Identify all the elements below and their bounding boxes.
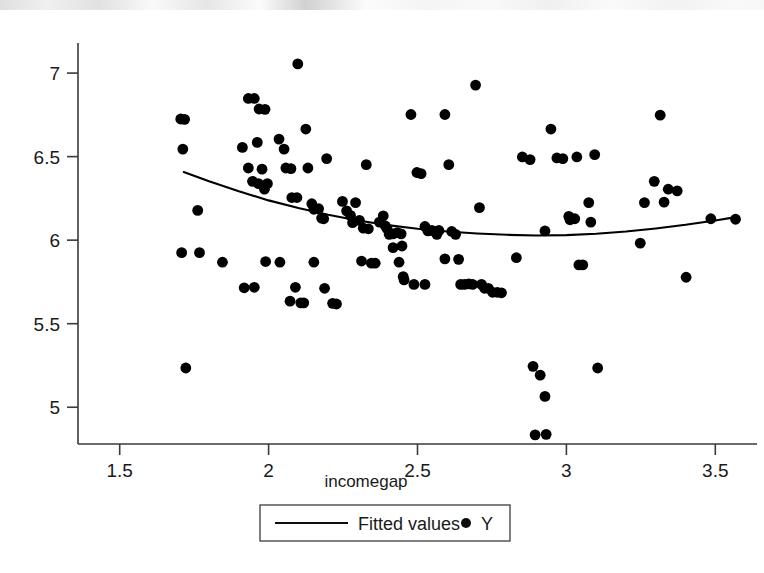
data-point <box>252 137 263 148</box>
data-point <box>260 104 271 115</box>
data-point <box>176 247 187 258</box>
data-point <box>180 363 191 374</box>
data-point <box>635 238 646 249</box>
data-point <box>440 109 451 120</box>
data-point <box>275 257 286 268</box>
data-point <box>192 205 203 216</box>
y-tick-label-6.5: 6.5 <box>34 147 60 168</box>
data-point <box>257 164 268 175</box>
y-tick-label-7: 7 <box>49 63 60 84</box>
data-point <box>416 168 427 179</box>
data-point <box>298 297 309 308</box>
data-point <box>592 363 603 374</box>
data-point <box>409 279 420 290</box>
data-point <box>585 217 596 228</box>
data-point <box>300 124 311 135</box>
data-point <box>705 213 716 224</box>
x-axis-title: incomegap <box>324 472 407 491</box>
data-point <box>443 159 454 170</box>
data-point <box>363 223 374 234</box>
data-point <box>292 58 303 69</box>
legend-dot-swatch <box>461 518 471 528</box>
data-point <box>571 152 582 163</box>
data-point <box>303 163 314 174</box>
data-point <box>243 163 254 174</box>
data-point <box>361 159 372 170</box>
legend: Fitted values Y <box>260 505 510 541</box>
data-point <box>259 184 270 195</box>
data-point <box>496 287 507 298</box>
data-point <box>217 257 228 268</box>
data-point <box>356 256 367 267</box>
data-point <box>528 361 539 372</box>
data-point <box>540 391 551 402</box>
data-point <box>399 275 410 286</box>
data-point <box>179 114 190 125</box>
figure-canvas: 55.566.57 1.522.533.5 incomegap Fitted v… <box>0 0 764 573</box>
data-point <box>511 252 522 263</box>
data-point <box>291 192 302 203</box>
data-point <box>406 109 417 120</box>
data-point <box>286 163 297 174</box>
data-point <box>337 196 348 207</box>
y-tick-label-5.5: 5.5 <box>34 314 60 335</box>
data-point <box>239 282 250 293</box>
data-point <box>318 213 329 224</box>
data-point <box>577 259 588 270</box>
data-point <box>434 225 445 236</box>
data-point <box>540 226 551 237</box>
y-tick-label-5: 5 <box>49 397 60 418</box>
data-point <box>470 80 481 91</box>
data-point <box>589 149 600 160</box>
data-point <box>260 256 271 267</box>
x-tick-label-3.5: 3.5 <box>702 460 728 481</box>
data-point <box>440 253 451 264</box>
data-point <box>279 144 290 155</box>
data-point <box>420 279 431 290</box>
data-point <box>370 258 381 269</box>
data-point <box>659 197 670 208</box>
data-point <box>541 429 552 440</box>
data-point <box>474 202 485 213</box>
x-tick-label-1.5: 1.5 <box>106 460 132 481</box>
data-point <box>681 272 692 283</box>
x-tick-label-2.5: 2.5 <box>404 460 430 481</box>
data-point <box>285 296 296 307</box>
data-point <box>194 247 205 258</box>
data-point <box>663 184 674 195</box>
data-point <box>396 228 407 239</box>
data-point <box>546 124 557 135</box>
data-point <box>249 93 260 104</box>
y-axis-tick-labels: 55.566.57 <box>34 63 60 418</box>
data-point <box>249 282 260 293</box>
data-point <box>290 282 301 293</box>
data-point <box>388 242 399 253</box>
data-point-group <box>175 58 741 440</box>
data-point <box>397 241 408 252</box>
data-point <box>331 299 342 310</box>
data-point <box>655 110 666 121</box>
data-point <box>450 229 461 240</box>
data-point <box>530 429 541 440</box>
data-point <box>453 254 464 265</box>
data-point <box>319 283 330 294</box>
legend-label-fitted-values: Fitted values <box>358 514 460 534</box>
data-point <box>313 203 324 214</box>
data-point <box>583 197 594 208</box>
data-point <box>535 370 546 381</box>
data-point <box>350 197 361 208</box>
data-point <box>569 213 580 224</box>
y-tick-label-6: 6 <box>49 230 60 251</box>
x-axis-tick-labels: 1.522.533.5 <box>106 460 728 481</box>
scatter-plot: 55.566.57 1.522.533.5 incomegap Fitted v… <box>0 0 764 573</box>
y-axis-ticks <box>67 73 78 407</box>
data-point <box>730 214 741 225</box>
data-point <box>321 153 332 164</box>
x-axis-ticks <box>120 444 716 455</box>
legend-label-y: Y <box>481 514 493 534</box>
data-point <box>274 134 285 145</box>
data-point <box>649 176 660 187</box>
data-point <box>177 144 188 155</box>
data-point <box>378 211 389 222</box>
x-tick-label-3: 3 <box>561 460 572 481</box>
